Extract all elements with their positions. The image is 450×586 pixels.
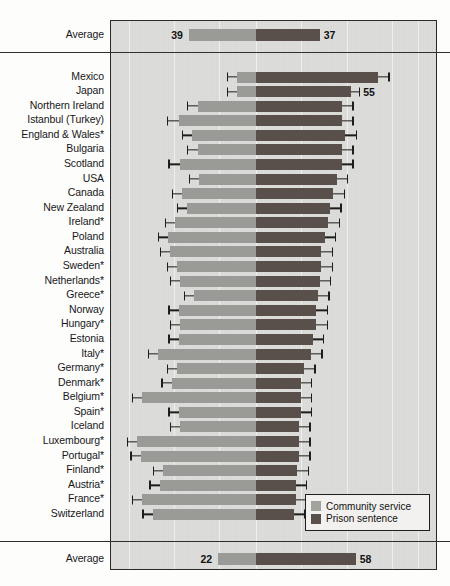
category-label: Netherlands* <box>44 275 104 286</box>
error-bar-cap-left <box>170 320 171 329</box>
error-bar-cap-right <box>388 73 389 82</box>
category-label: Finland* <box>66 464 104 475</box>
error-bar-cap-left <box>168 306 169 315</box>
bar-community-service <box>192 130 256 141</box>
error-bar-right <box>313 339 323 340</box>
category-label: France* <box>68 493 104 504</box>
bar-community-service <box>163 465 256 476</box>
category-label: Hungary* <box>61 318 104 329</box>
bar-row <box>111 305 436 316</box>
error-bar-left <box>172 193 182 194</box>
error-bar-right <box>316 310 326 311</box>
bar-prison-sentence <box>256 261 321 272</box>
bar-prison-sentence <box>256 144 342 155</box>
error-bar-left <box>170 426 180 427</box>
error-bar-right <box>311 353 321 354</box>
error-bar-left <box>182 135 192 136</box>
error-bar-cap-right <box>314 364 315 373</box>
chart-legend: Community service Prison sentence <box>305 494 430 531</box>
category-label: Northern Ireland <box>30 100 104 111</box>
error-bar-right <box>296 485 306 486</box>
bar-prison-sentence <box>256 174 337 185</box>
bar-row <box>111 203 436 214</box>
bar-community-service <box>180 159 256 170</box>
bar-prison-sentence <box>256 159 342 170</box>
error-bar-right <box>378 76 388 77</box>
bar-prison-sentence <box>256 130 345 141</box>
error-bar-cap-right <box>323 335 324 344</box>
bar-prison-sentence <box>256 436 299 447</box>
bar-row <box>111 407 436 418</box>
bar-community-service <box>194 290 256 301</box>
bar-prison-sentence <box>256 101 342 112</box>
error-bar-cap-right <box>352 145 353 154</box>
chart-figure: 3937552258 AverageMexicoJapanNorthern Ir… <box>0 0 450 586</box>
error-bar-left <box>127 441 137 442</box>
bar-prison-sentence <box>256 86 351 97</box>
bar-row <box>111 363 436 374</box>
error-bar-cap-right <box>332 262 333 271</box>
bar-community-service <box>179 334 256 345</box>
bar-prison-sentence <box>256 480 296 491</box>
error-bar-left <box>149 485 159 486</box>
error-bar-cap-left <box>132 393 133 402</box>
error-bar-cap-left <box>127 437 128 446</box>
category-label: Italy* <box>81 348 104 359</box>
bar-row <box>111 261 436 272</box>
bar-prison-sentence <box>256 494 296 505</box>
error-bar-cap-right <box>335 233 336 242</box>
bar-prison-sentence <box>256 29 320 41</box>
bar-prison-sentence <box>256 349 311 360</box>
error-bar-cap-right <box>311 408 312 417</box>
category-label: Austria* <box>68 479 104 490</box>
bar-prison-sentence <box>256 378 301 389</box>
bar-community-service <box>158 349 256 360</box>
legend-swatch-icon-community-service <box>311 501 321 511</box>
bar-row: 55 <box>111 86 436 97</box>
bar-prison-sentence <box>256 188 333 199</box>
error-bar-cap-left <box>132 495 133 504</box>
error-bar-cap-right <box>352 116 353 125</box>
error-bar-cap-left <box>227 87 228 96</box>
value-label-prison-sentence: 55 <box>363 86 375 98</box>
error-bar-left <box>167 266 177 267</box>
error-bar-left <box>165 222 175 223</box>
category-label: Scotland <box>64 158 104 169</box>
error-bar-left <box>187 106 197 107</box>
bar-community-service <box>199 174 256 185</box>
error-bar-right <box>337 178 347 179</box>
value-label-community-service: 39 <box>171 29 183 41</box>
error-bar-cap-left <box>161 379 162 388</box>
error-bar-cap-right <box>309 452 310 461</box>
error-bar-right <box>321 251 331 252</box>
error-bar-left <box>167 120 179 121</box>
bar-community-service <box>153 509 256 520</box>
error-bar-left <box>227 76 237 77</box>
bar-row <box>111 392 436 403</box>
bar-prison-sentence <box>256 407 301 418</box>
error-bar-right <box>299 426 309 427</box>
bar-row <box>111 144 436 155</box>
category-label: England & Wales* <box>21 129 104 140</box>
bar-prison-sentence <box>256 203 330 214</box>
bar-row <box>111 115 436 126</box>
bar-prison-sentence <box>256 246 321 257</box>
error-bar-right <box>342 106 352 107</box>
category-label: Denmark* <box>58 377 104 388</box>
error-bar-cap-left <box>170 422 171 431</box>
bar-community-service <box>142 392 256 403</box>
error-bar-right <box>318 295 328 296</box>
error-bar-cap-left <box>187 145 188 154</box>
value-label-community-service: 22 <box>200 553 212 565</box>
bar-prison-sentence <box>256 290 318 301</box>
category-label: Bulgaria <box>66 143 104 154</box>
bar-prison-sentence <box>256 217 328 228</box>
category-label: Japan <box>76 85 104 96</box>
legend-item-community-service: Community service <box>311 501 424 512</box>
error-bar-left <box>168 412 178 413</box>
bar-community-service <box>198 101 256 112</box>
bar-community-service <box>218 553 256 565</box>
error-bar-right <box>301 383 311 384</box>
error-bar-right <box>299 441 309 442</box>
bar-community-service <box>142 494 256 505</box>
